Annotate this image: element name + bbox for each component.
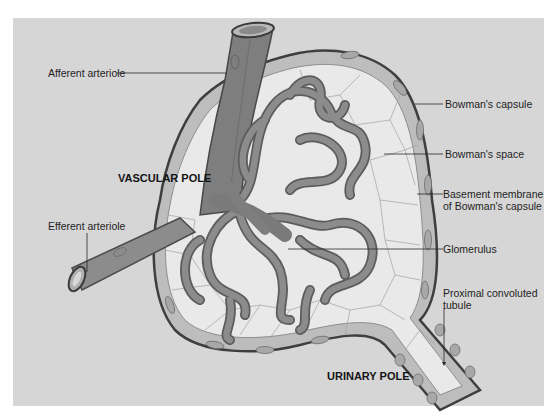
label-glomerulus: Glomerulus xyxy=(443,243,497,255)
label-afferent-arteriole: Afferent arteriole xyxy=(48,67,125,79)
label-efferent-arteriole: Efferent arteriole xyxy=(48,220,125,232)
label-proximal-convoluted-tubule: Proximal convoluted tubule xyxy=(443,287,538,311)
label-vascular-pole: VASCULAR POLE xyxy=(118,172,211,184)
label-bowmans-capsule: Bowman's capsule xyxy=(445,98,532,110)
label-basement-membrane: Basement membrane of Bowman's capsule xyxy=(443,188,543,212)
label-urinary-pole: URINARY POLE xyxy=(327,370,410,382)
label-bowmans-space: Bowman's space xyxy=(445,148,524,160)
